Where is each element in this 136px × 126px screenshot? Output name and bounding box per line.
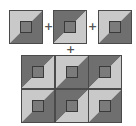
grid-tile-r1-c1 bbox=[21, 55, 55, 89]
center-square bbox=[33, 67, 44, 78]
quilt-tile-1 bbox=[9, 10, 43, 44]
grid-tile-r2-c3 bbox=[88, 89, 122, 123]
quilt-tile-3 bbox=[98, 10, 132, 44]
plus-sign-2: + bbox=[88, 21, 96, 32]
center-square bbox=[21, 22, 32, 33]
plus-sign-1: + bbox=[44, 21, 52, 32]
grid-tile-r1-c2 bbox=[55, 55, 89, 89]
center-square bbox=[100, 67, 111, 78]
center-square bbox=[67, 101, 78, 112]
grid-tile-r2-c1 bbox=[21, 89, 55, 123]
center-square bbox=[33, 101, 44, 112]
center-square bbox=[67, 67, 78, 78]
grid-tile-r1-c3 bbox=[88, 55, 122, 89]
center-square bbox=[110, 22, 121, 33]
center-square bbox=[100, 101, 111, 112]
center-square bbox=[65, 22, 76, 33]
plus-sign-3: + bbox=[66, 44, 74, 55]
grid-tile-r2-c2 bbox=[55, 89, 89, 123]
quilt-tile-2 bbox=[53, 10, 87, 44]
